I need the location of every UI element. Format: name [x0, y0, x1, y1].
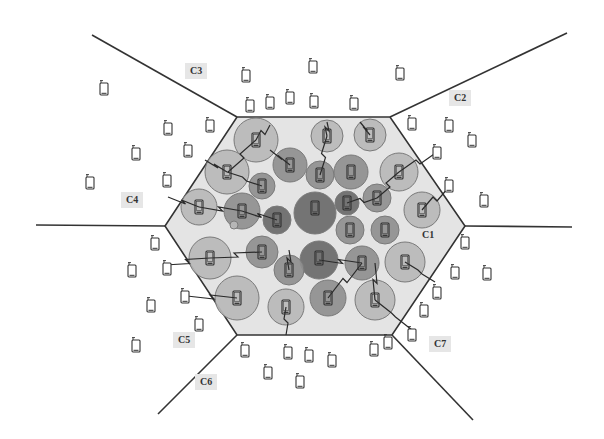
phone-icon [147, 298, 155, 313]
phone-icon [305, 348, 313, 363]
cluster-circle [334, 155, 368, 189]
phone-icon [206, 118, 214, 133]
phone-icon [195, 317, 203, 332]
phone-icon [433, 145, 441, 160]
phone-icon [420, 303, 428, 318]
phone-icon [328, 353, 336, 368]
phone-icon [445, 178, 453, 193]
phone-icon [264, 365, 272, 380]
cell-label-c5: C5 [173, 332, 195, 348]
phone-icon [100, 81, 108, 96]
cell-label-c6: C6 [195, 374, 217, 390]
phone-icon [86, 175, 94, 190]
phone-icon [164, 121, 172, 136]
cell-label-c2: C2 [449, 90, 471, 106]
phone-icon [184, 143, 192, 158]
phone-icon [132, 146, 140, 161]
phone-icon [132, 338, 140, 353]
cluster-circle [371, 216, 399, 244]
boundary-line [390, 33, 567, 117]
cell-label-c1: C1 [417, 227, 439, 243]
phone-icon [310, 94, 318, 109]
phone-icon [480, 193, 488, 208]
phone-icon [370, 342, 378, 357]
phone-icon [396, 66, 404, 81]
phone-icon [266, 95, 274, 110]
phone-icon [284, 345, 292, 360]
phone-icon [309, 59, 317, 74]
phone-icon [128, 263, 136, 278]
phone-icon [350, 96, 358, 111]
boundary-line [36, 225, 165, 226]
phone-icon [468, 133, 476, 148]
phone-icon [384, 335, 392, 350]
phone-icon [181, 289, 189, 304]
cell-label-c7: C7 [429, 336, 451, 352]
cell-label-c4: C4 [121, 192, 143, 208]
phone-icon [445, 118, 453, 133]
phone-icon [286, 90, 294, 105]
phone-icon [246, 98, 254, 113]
boundary-line [92, 35, 237, 117]
phone-icon [296, 374, 304, 389]
phone-icon [408, 116, 416, 131]
phone-icon [433, 285, 441, 300]
phone-icon [151, 236, 159, 251]
cluster-circle [336, 216, 364, 244]
phone-icon [241, 343, 249, 358]
phone-icon [242, 68, 250, 83]
cluster-circle [230, 221, 238, 229]
phone-icon [451, 265, 459, 280]
boundary-line [465, 226, 572, 227]
phone-icon [163, 173, 171, 188]
phone-icon [461, 235, 469, 250]
phone-icon [483, 266, 491, 281]
network-diagram [0, 0, 604, 439]
phone-icon [163, 261, 171, 276]
phone-icon [408, 327, 416, 342]
cell-label-c3: C3 [185, 63, 207, 79]
